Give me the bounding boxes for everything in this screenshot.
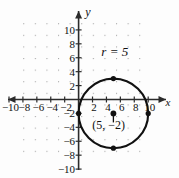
- x-tick-label: 2: [91, 101, 97, 113]
- y-tick-label: 4: [70, 66, 76, 78]
- y-tick-label: −2: [63, 107, 75, 119]
- x-tick-label: 6: [119, 101, 125, 113]
- y-tick-label: −8: [63, 149, 75, 161]
- y-tick-label: 8: [70, 38, 76, 50]
- y-tick-label: 6: [70, 52, 76, 64]
- x-tick-label: 8: [133, 101, 139, 113]
- circle-graph-svg: x y −10 −8 −6 −4 −2 2 4 6 8 10 10 8 6 4 …: [0, 0, 179, 178]
- coordinate-plane-figure: x y −10 −8 −6 −4 −2 2 4 6 8 10 10 8 6 4 …: [0, 0, 179, 178]
- grid-dots: [21, 18, 149, 157]
- y-tick-label: −10: [58, 163, 76, 175]
- x-tick-label: −6: [32, 101, 44, 113]
- point-right: [146, 111, 151, 116]
- y-tick-label: 10: [64, 24, 76, 36]
- point-bottom: [111, 146, 116, 151]
- point-left: [76, 111, 81, 116]
- y-axis-arrow-up: [75, 11, 82, 19]
- center-annotation: (5, −2): [92, 118, 125, 132]
- y-axis-label: y: [84, 5, 91, 19]
- y-tick-label: −6: [63, 135, 75, 147]
- x-tick-label: −10: [2, 101, 20, 113]
- x-tick-label: 4: [105, 101, 111, 113]
- point-top: [111, 76, 116, 81]
- x-tick-label: −8: [19, 101, 31, 113]
- radius-annotation: r = 5: [101, 44, 128, 59]
- y-tick-label: 2: [70, 80, 76, 92]
- x-axis-label: x: [165, 96, 171, 108]
- x-tick-label: −4: [46, 101, 58, 113]
- y-tick-label: −4: [63, 121, 75, 133]
